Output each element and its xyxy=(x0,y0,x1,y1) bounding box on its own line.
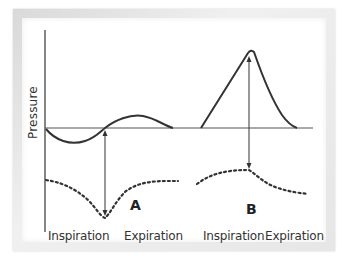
x-label-b-expiration: Expiration xyxy=(265,229,324,243)
x-label-a-expiration: Expiration xyxy=(124,229,183,243)
x-label-a-inspiration: Inspiration xyxy=(48,229,109,243)
panel-label-b: B xyxy=(246,201,257,217)
panel-label-a: A xyxy=(130,197,141,213)
pressure-diagram xyxy=(0,0,347,264)
curve-b-dotted xyxy=(197,170,308,194)
curve-a-dotted xyxy=(46,180,178,218)
x-label-b-inspiration: Inspiration xyxy=(203,229,264,243)
y-axis-label: Pressure xyxy=(26,86,40,139)
arrowhead-a-up xyxy=(103,130,108,136)
curve-a-solid xyxy=(46,116,173,143)
arrowhead-b-down xyxy=(247,163,252,169)
arrowhead-b-up xyxy=(247,56,252,62)
